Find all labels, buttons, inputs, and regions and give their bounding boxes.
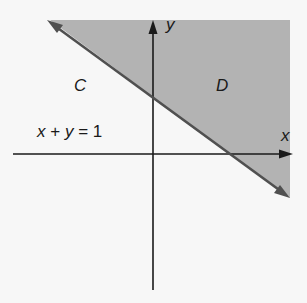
- equation-y: y: [65, 122, 74, 141]
- line-equation-label: x + y = 1: [37, 123, 102, 140]
- y-axis-label: y: [166, 16, 175, 33]
- region-c-label: C: [74, 77, 86, 94]
- equation-x: x: [37, 122, 46, 141]
- equation-equals: =: [78, 122, 88, 141]
- region-d-label: D: [216, 77, 228, 94]
- x-axis-label: x: [281, 127, 290, 144]
- diagram-canvas: y x C D x + y = 1: [0, 0, 307, 303]
- diagram-graphics: [0, 0, 307, 303]
- equation-plus: +: [50, 122, 60, 141]
- equation-one: 1: [93, 122, 102, 141]
